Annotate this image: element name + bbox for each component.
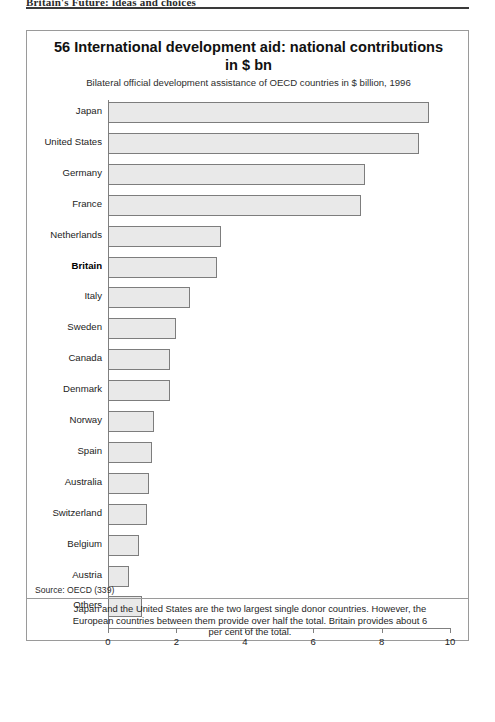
bar: [108, 133, 419, 154]
bar: [108, 535, 139, 556]
bar-category-label: Canada: [68, 352, 102, 363]
bar-row: Netherlands: [108, 226, 450, 247]
bar-category-label: Australia: [65, 476, 102, 487]
plot-area: 0246810 JapanUnited StatesGermanyFranceN…: [108, 100, 450, 624]
bar-row: Sweden: [108, 318, 450, 339]
figure-caption: Japan and the United States are the two …: [65, 603, 435, 638]
bar-category-label: United States: [44, 136, 102, 147]
bar-row: Canada: [108, 349, 450, 370]
bar: [108, 195, 361, 216]
chart-title: 56 International development aid: nation…: [47, 38, 450, 74]
bar-category-label: Denmark: [63, 383, 102, 394]
bar-category-label: Britain: [72, 260, 102, 271]
bar-category-label: Norway: [69, 414, 102, 425]
bar-category-label: Spain: [77, 445, 102, 456]
bar: [108, 349, 170, 370]
bar-row: Spain: [108, 442, 450, 463]
bar: [108, 411, 154, 432]
bar-category-label: Netherlands: [50, 229, 102, 240]
bar-row: Japan: [108, 102, 450, 123]
source-note: Source: OECD (339): [35, 585, 114, 595]
bar-row: Germany: [108, 164, 450, 185]
bar: [108, 566, 129, 587]
bar: [108, 504, 147, 525]
bar-category-label: Sweden: [67, 321, 102, 332]
bar-category-label: Italy: [84, 290, 102, 301]
bar: [108, 442, 152, 463]
bar: [108, 318, 176, 339]
bar: [108, 380, 170, 401]
x-tick-mark: [450, 628, 451, 633]
caption-divider: [27, 598, 468, 599]
bar-row: Norway: [108, 411, 450, 432]
header-rule: [26, 7, 469, 9]
figure-container: 56 International development aid: nation…: [26, 30, 469, 641]
bar: [108, 473, 149, 494]
bar-category-label: Belgium: [67, 538, 102, 549]
bar-row: Belgium: [108, 535, 450, 556]
bar: [108, 102, 429, 123]
bar: [108, 164, 365, 185]
bar: [108, 287, 190, 308]
chart-subtitle: Bilateral official development assistanc…: [39, 77, 458, 89]
bar-category-label: Switzerland: [52, 507, 102, 518]
bar-row: Switzerland: [108, 504, 450, 525]
bar-category-label: Japan: [76, 105, 102, 116]
bar-row: Denmark: [108, 380, 450, 401]
bar: [108, 257, 217, 278]
bar-category-label: Austria: [72, 569, 102, 580]
bar: [108, 226, 221, 247]
bar-row: Britain: [108, 257, 450, 278]
bar-row: Australia: [108, 473, 450, 494]
bar-category-label: France: [72, 198, 102, 209]
x-tick-label: 10: [445, 636, 456, 647]
bar-row: Italy: [108, 287, 450, 308]
bar-category-label: Germany: [63, 167, 102, 178]
bar-row: United States: [108, 133, 450, 154]
bar-row: Austria: [108, 566, 450, 587]
bar-row: France: [108, 195, 450, 216]
page-running-header: Britain's Future: ideas and choices: [26, 0, 469, 11]
